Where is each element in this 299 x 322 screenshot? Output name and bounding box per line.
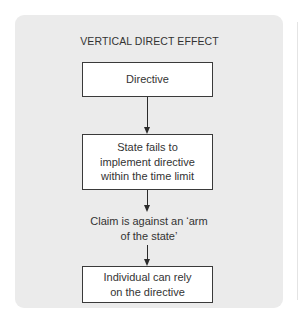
arrow-down-icon: [147, 190, 149, 212]
step-state-fails-box: State fails to implement directive withi…: [82, 134, 213, 190]
step-individual-relies-label: Individual can rely on the directive: [97, 270, 198, 299]
step-arm-of-state-text: Claim is against an ‘arm of the state’: [60, 214, 238, 243]
step-directive-box: Directive: [82, 62, 213, 97]
diagram-title: VERTICAL DIRECT EFFECT: [0, 35, 299, 47]
arrow-down-icon: [147, 245, 149, 266]
page-edge-divider: [297, 22, 298, 300]
step-state-fails-label: State fails to implement directive withi…: [91, 140, 204, 184]
step-individual-relies-box: Individual can rely on the directive: [82, 266, 213, 303]
arrow-down-icon: [147, 97, 149, 134]
step-directive-label: Directive: [126, 72, 169, 87]
